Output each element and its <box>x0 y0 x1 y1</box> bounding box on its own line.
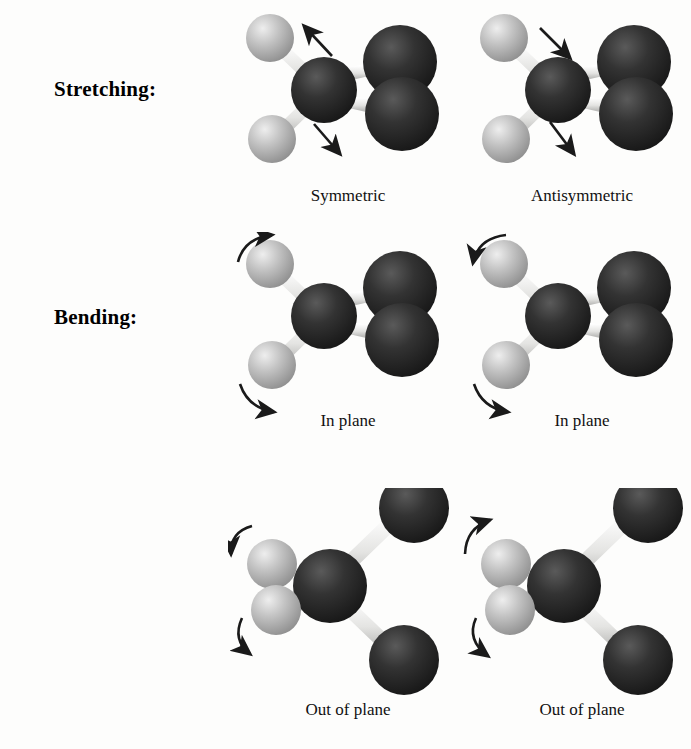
hydrogen-atoms <box>480 14 530 163</box>
caption-out-of-plane-1: Out of plane <box>228 700 468 720</box>
heavy-atoms <box>293 488 449 695</box>
heavy-atoms <box>527 488 683 695</box>
hydrogen-atoms <box>247 539 301 635</box>
molecule-bend-in-plane-1 <box>228 232 468 432</box>
heavy-atoms <box>291 25 439 151</box>
heavy-atoms <box>525 251 673 377</box>
hydrogen-atoms <box>246 240 296 389</box>
molecule-symmetric-stretch <box>228 6 468 206</box>
molecule-antisymmetric-stretch <box>462 6 691 206</box>
hydrogen-atoms <box>481 539 535 635</box>
caption-symmetric: Symmetric <box>228 186 468 206</box>
caption-in-plane-1: In plane <box>228 411 468 431</box>
molecule-bend-out-of-plane-2 <box>462 488 691 688</box>
molecule-bend-out-of-plane-1 <box>228 488 468 688</box>
vibration-arrows <box>231 526 252 654</box>
caption-out-of-plane-2: Out of plane <box>462 700 691 720</box>
hydrogen-atoms <box>246 14 296 163</box>
figure-canvas: Stretching: Bending: <box>0 0 691 749</box>
molecule-bend-in-plane-2 <box>462 232 691 432</box>
heavy-atoms <box>525 25 673 151</box>
hydrogen-atoms <box>480 240 530 389</box>
caption-antisymmetric: Antisymmetric <box>462 186 691 206</box>
row-label-stretching: Stretching: <box>54 77 156 102</box>
vibration-arrows <box>465 520 490 656</box>
heavy-atoms <box>291 251 439 377</box>
row-label-bending: Bending: <box>54 305 137 330</box>
caption-in-plane-2: In plane <box>462 411 691 431</box>
